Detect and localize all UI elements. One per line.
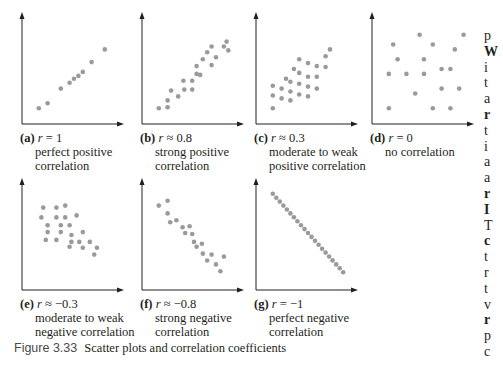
data-point [157, 203, 162, 208]
data-point [41, 205, 46, 210]
data-point [192, 240, 197, 245]
data-point [81, 70, 86, 75]
data-point [44, 238, 49, 243]
scatter-plot-c [254, 14, 356, 127]
data-point [306, 61, 311, 66]
data-point [302, 227, 307, 232]
caption-e: (e) r ≈ −0.3 moderate to weak negative c… [20, 297, 135, 339]
data-point [288, 89, 293, 94]
data-point [209, 252, 214, 257]
data-point [69, 240, 74, 245]
data-point [169, 88, 174, 93]
data-point [76, 74, 81, 79]
data-point [198, 73, 203, 78]
data-point [214, 55, 219, 60]
data-point [209, 63, 214, 68]
data-point [194, 245, 199, 250]
scatter-svg [140, 180, 242, 293]
data-point [387, 106, 392, 111]
side-text-char: i [484, 60, 503, 76]
data-point [39, 215, 44, 220]
y-axis-arrow-icon [140, 12, 145, 19]
data-point [288, 211, 293, 216]
data-point [67, 80, 72, 85]
data-point [323, 65, 328, 70]
data-point [205, 50, 210, 55]
data-point [222, 254, 227, 259]
data-point [54, 215, 59, 220]
data-point [295, 219, 300, 224]
data-point [334, 262, 339, 267]
data-point [182, 87, 187, 92]
data-point [297, 71, 302, 76]
data-point [413, 91, 418, 96]
side-text-char: v [484, 297, 503, 313]
data-point [313, 239, 318, 244]
data-point [288, 98, 293, 103]
data-point [92, 252, 97, 257]
scatter-svg [254, 14, 356, 127]
data-point [315, 64, 320, 69]
caption-d: (d) r = 0 no correlation [370, 131, 455, 159]
data-point [431, 42, 436, 47]
y-axis-arrow-icon [20, 178, 25, 185]
side-text-char: t [484, 75, 503, 91]
data-point [224, 39, 229, 44]
data-point [165, 198, 170, 203]
x-axis-arrow-icon [467, 122, 474, 127]
data-point [45, 230, 50, 235]
data-point [341, 270, 346, 275]
data-point [316, 243, 321, 248]
caption-a: (a) r = 1 perfect positive correlation [20, 131, 112, 173]
data-point [165, 98, 170, 103]
data-point [278, 199, 283, 204]
side-text-char: t [484, 249, 503, 265]
data-point [165, 211, 170, 216]
data-point [281, 203, 286, 208]
data-point [187, 224, 192, 229]
data-point [54, 238, 59, 243]
data-point [59, 223, 64, 228]
scatter-svg [254, 180, 356, 293]
scatter-plot-a [20, 14, 122, 127]
scatter-svg [20, 14, 122, 127]
data-point [201, 57, 206, 62]
caption-b: (b) r ≈ 0.8 strong positive correlation [140, 131, 229, 173]
data-point [284, 77, 289, 82]
x-axis-arrow-icon [117, 122, 124, 127]
data-point [157, 106, 162, 111]
side-text-char: r [484, 107, 503, 123]
data-point [461, 32, 466, 37]
data-point [306, 94, 311, 99]
data-point [320, 246, 325, 251]
side-text-char: t [484, 281, 503, 297]
y-axis-arrow-icon [254, 178, 259, 185]
data-point [201, 251, 206, 256]
data-point [448, 106, 453, 111]
x-axis-arrow-icon [351, 288, 358, 293]
data-point [168, 220, 173, 225]
data-point [315, 86, 320, 91]
scatter-plot-e [20, 180, 122, 293]
data-point [77, 240, 82, 245]
data-point [89, 60, 94, 65]
data-point [279, 86, 284, 91]
data-point [200, 242, 205, 247]
x-axis-arrow-icon [117, 288, 124, 293]
side-text-char: T [484, 218, 503, 234]
data-point [279, 96, 284, 101]
data-point [226, 48, 231, 53]
data-point [74, 213, 79, 218]
data-point [271, 83, 276, 88]
data-point [337, 266, 342, 271]
data-point [271, 106, 276, 111]
scatter-plot-d [370, 14, 472, 127]
data-point [439, 86, 444, 91]
side-text-char: i [484, 139, 503, 155]
data-point [292, 215, 297, 220]
side-text-char: r [484, 312, 503, 328]
data-point [218, 269, 223, 274]
data-point [194, 64, 199, 69]
y-axis-arrow-icon [370, 12, 375, 19]
data-point [417, 32, 422, 37]
